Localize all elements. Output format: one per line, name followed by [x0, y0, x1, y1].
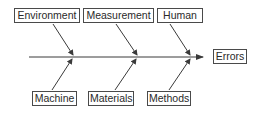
- bone-machine: [52, 59, 72, 90]
- fishbone-diagram: Environment Measurement Human Errors Mac…: [0, 0, 263, 116]
- cause-box-human: Human: [157, 8, 203, 23]
- cause-label: Materials: [90, 92, 133, 104]
- effect-box-errors: Errors: [213, 49, 247, 64]
- bone-measurement: [116, 24, 137, 55]
- cause-label: Human: [163, 9, 197, 21]
- bone-human: [170, 24, 190, 55]
- bone-methods: [169, 59, 190, 90]
- cause-label: Machine: [35, 92, 75, 104]
- effect-label: Errors: [216, 50, 245, 62]
- cause-box-measurement: Measurement: [83, 8, 154, 23]
- cause-label: Methods: [149, 92, 189, 104]
- cause-box-machine: Machine: [32, 91, 77, 106]
- cause-box-materials: Materials: [88, 91, 134, 106]
- cause-box-methods: Methods: [147, 91, 191, 106]
- bone-environment: [53, 24, 73, 55]
- bone-materials: [115, 59, 136, 90]
- cause-box-environment: Environment: [14, 8, 80, 23]
- cause-label: Measurement: [86, 9, 150, 21]
- cause-label: Environment: [18, 9, 77, 21]
